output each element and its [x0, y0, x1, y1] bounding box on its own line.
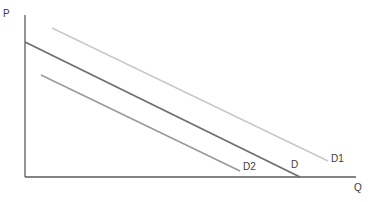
x-axis-label: Q — [354, 182, 362, 193]
curve-d — [25, 42, 300, 177]
y-axis-label: P — [3, 8, 10, 19]
demand-shift-diagram: P Q D1 D D2 — [0, 0, 379, 202]
curve-d2-label: D2 — [243, 161, 256, 172]
curve-d2 — [41, 75, 240, 171]
curve-d1-label: D1 — [331, 153, 344, 164]
curve-d1 — [52, 28, 328, 161]
curve-d-label: D — [291, 159, 298, 170]
